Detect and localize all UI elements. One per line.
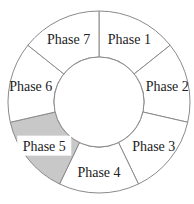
phase-label-6: Phase 6 [9,79,52,94]
phase-label-2: Phase 2 [146,79,189,94]
phase-label-4: Phase 4 [77,165,120,180]
center-circle [54,57,144,147]
phase-cycle-diagram: Phase 1Phase 2Phase 3Phase 4Phase 5Phase… [0,0,194,204]
phase-label-5: Phase 5 [23,139,66,154]
phase-label-7: Phase 7 [47,32,90,47]
phase-label-3: Phase 3 [132,139,175,154]
phase-label-1: Phase 1 [108,32,151,47]
